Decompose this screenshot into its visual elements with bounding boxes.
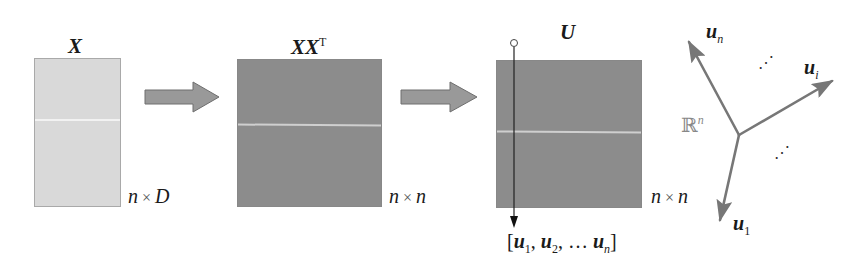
vector-ui-arrow <box>739 81 832 135</box>
vector-un-label: un <box>706 20 723 47</box>
ellipsis-upper: ⋰ <box>758 53 774 72</box>
block-arrow-2 <box>401 82 477 112</box>
vector-u1-label: u1 <box>733 212 750 239</box>
space-label: ℝn <box>681 113 704 137</box>
column-scan-arrow <box>510 40 518 229</box>
vector-u1-arrow <box>720 135 739 220</box>
block-arrow-1 <box>145 82 219 112</box>
ellipsis-lower: ⋰ <box>774 143 790 162</box>
vector-ui-label: ui <box>804 56 818 83</box>
